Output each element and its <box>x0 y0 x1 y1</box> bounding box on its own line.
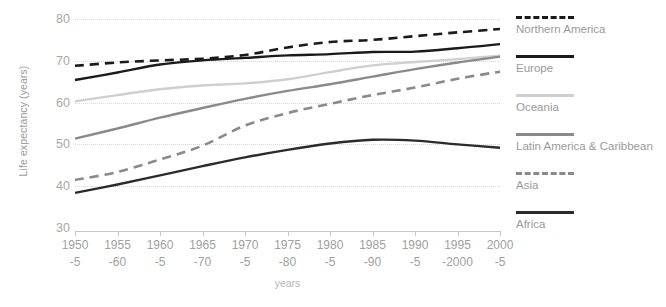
legend-swatch-asia <box>516 172 574 175</box>
legend-label-europe: Europe <box>516 62 553 74</box>
x-tick-mark <box>458 231 459 236</box>
x-tick-mark <box>160 231 161 236</box>
legend-label-africa: Africa <box>516 218 545 230</box>
legend-swatch-europe <box>516 55 574 58</box>
legend-label-asia: Asia <box>516 179 538 191</box>
x-tick-mark <box>500 231 501 236</box>
x-tick-mark <box>75 231 76 236</box>
x-tick-mark <box>118 231 119 236</box>
legend-swatch-latin-america-caribbean <box>516 133 574 136</box>
legend-label-oceania: Oceania <box>516 101 559 113</box>
legend-swatch-africa <box>516 211 574 214</box>
legend-swatch-oceania <box>516 94 574 97</box>
legend-swatch-northern-america <box>516 16 574 19</box>
x-tick-mark <box>330 231 331 236</box>
x-tick-mark <box>245 231 246 236</box>
life-expectancy-line-chart: Life expectancy (years) 304050607080 195… <box>0 0 666 307</box>
legend-label-northern-america: Northern America <box>516 23 605 35</box>
series-line-asia <box>75 72 500 180</box>
plot-area: Life expectancy (years) 304050607080 195… <box>0 0 510 307</box>
x-axis-title: years <box>75 277 500 289</box>
x-tick-mark <box>415 231 416 236</box>
x-tick-mark <box>373 231 374 236</box>
x-tick-mark <box>203 231 204 236</box>
x-tick-mark <box>288 231 289 236</box>
legend-label-latin-america-caribbean: Latin America & Caribbean <box>516 140 653 152</box>
legend: Northern AmericaEuropeOceaniaLatin Ameri… <box>513 0 666 307</box>
